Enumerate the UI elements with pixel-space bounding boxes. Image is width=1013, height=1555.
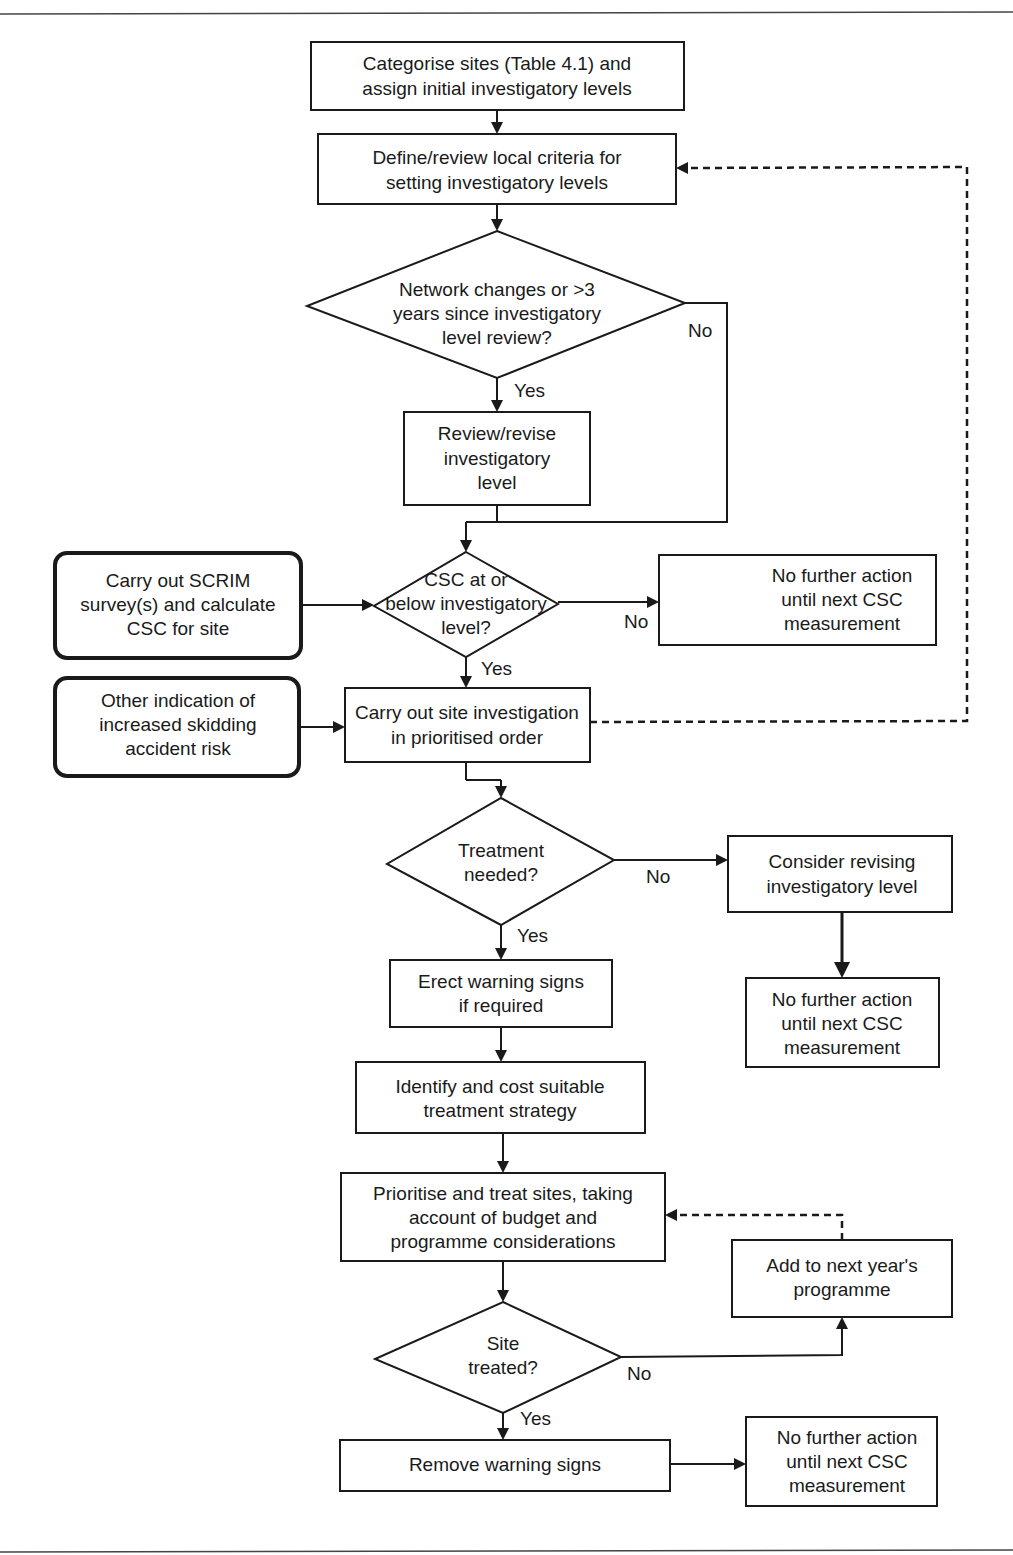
node-text: below investigatory bbox=[385, 593, 547, 614]
node-categorise: Categorise sites (Table 4.1) and assign … bbox=[311, 42, 684, 110]
node-text: Review/revise bbox=[438, 423, 556, 444]
node-text: Carry out site investigation bbox=[355, 702, 579, 723]
edge-label-yes: Yes bbox=[517, 925, 548, 946]
node-no-action-3: No further action until next CSC measure… bbox=[746, 1417, 937, 1506]
node-text: programme considerations bbox=[391, 1231, 616, 1252]
node-text: investigatory bbox=[444, 448, 551, 469]
node-scrim-survey: Carry out SCRIM survey(s) and calculate … bbox=[55, 553, 301, 658]
node-text: Carry out SCRIM bbox=[106, 570, 251, 591]
node-define: Define/review local criteria for setting… bbox=[318, 134, 676, 204]
node-text: No further action bbox=[777, 1427, 917, 1448]
node-text: if required bbox=[459, 995, 544, 1016]
node-text: years since investigatory bbox=[393, 303, 602, 324]
node-text: Prioritise and treat sites, taking bbox=[373, 1183, 633, 1204]
node-text: Consider revising bbox=[769, 851, 916, 872]
node-text: until next CSC bbox=[781, 589, 902, 610]
edge-label-no: No bbox=[627, 1363, 651, 1384]
node-text: needed? bbox=[464, 864, 538, 885]
node-text: Remove warning signs bbox=[409, 1454, 601, 1475]
node-text: investigatory level bbox=[766, 876, 917, 897]
node-text: No further action bbox=[772, 989, 912, 1010]
node-text: level bbox=[477, 472, 516, 493]
node-no-action-2: No further action until next CSC measure… bbox=[746, 978, 939, 1067]
bottom-rule bbox=[0, 1550, 1013, 1552]
node-text: Identify and cost suitable bbox=[395, 1076, 604, 1097]
node-text: level review? bbox=[442, 327, 552, 348]
node-review-revise: Review/revise investigatory level bbox=[404, 412, 590, 505]
node-text: Erect warning signs bbox=[418, 971, 584, 992]
edge-label-no: No bbox=[688, 320, 712, 341]
decision-treatment-needed: Treatment needed? bbox=[387, 798, 614, 925]
node-text: CSC for site bbox=[127, 618, 229, 639]
node-text: measurement bbox=[784, 613, 901, 634]
node-text: setting investigatory levels bbox=[386, 172, 608, 193]
node-text: Other indication of bbox=[101, 690, 256, 711]
edge-label-no: No bbox=[646, 866, 670, 887]
decision-csc-level: CSC at or below investigatory level? bbox=[374, 552, 558, 657]
node-remove-signs: Remove warning signs bbox=[340, 1440, 670, 1491]
node-text: account of budget and bbox=[409, 1207, 597, 1228]
edge-label-yes: Yes bbox=[520, 1408, 551, 1429]
node-text: CSC at or bbox=[424, 569, 508, 590]
node-text: treatment strategy bbox=[423, 1100, 577, 1121]
node-text: No further action bbox=[772, 565, 912, 586]
node-text: treated? bbox=[468, 1357, 538, 1378]
flowchart: Categorise sites (Table 4.1) and assign … bbox=[0, 0, 1013, 1555]
node-text: increased skidding bbox=[99, 714, 256, 735]
decision-network-changes: Network changes or >3 years since invest… bbox=[307, 231, 685, 378]
node-add-next-year: Add to next year's programme bbox=[732, 1240, 952, 1317]
node-text: Network changes or >3 bbox=[399, 279, 595, 300]
node-text: measurement bbox=[789, 1475, 906, 1496]
edge-label-yes: Yes bbox=[481, 658, 512, 679]
node-text: until next CSC bbox=[781, 1013, 902, 1034]
node-text: measurement bbox=[784, 1037, 901, 1058]
node-prioritise-treat: Prioritise and treat sites, taking accou… bbox=[341, 1173, 665, 1261]
node-text: accident risk bbox=[125, 738, 231, 759]
node-text: level? bbox=[441, 617, 491, 638]
node-consider-revising: Consider revising investigatory level bbox=[728, 836, 952, 912]
node-other-indication: Other indication of increased skidding a… bbox=[55, 678, 299, 776]
node-text: survey(s) and calculate bbox=[80, 594, 275, 615]
node-erect-signs: Erect warning signs if required bbox=[390, 960, 612, 1027]
node-site-investigation: Carry out site investigation in prioriti… bbox=[345, 688, 590, 762]
node-text: assign initial investigatory levels bbox=[362, 78, 631, 99]
node-text: Add to next year's bbox=[766, 1255, 918, 1276]
node-no-action-1: No further action until next CSC measure… bbox=[659, 555, 936, 645]
node-text: Treatment bbox=[458, 840, 545, 861]
node-text: Site bbox=[487, 1333, 520, 1354]
node-text: in prioritised order bbox=[391, 727, 544, 748]
top-rule bbox=[0, 12, 1013, 14]
node-text: programme bbox=[793, 1279, 890, 1300]
edge-label-yes: Yes bbox=[514, 380, 545, 401]
node-text: Categorise sites (Table 4.1) and bbox=[363, 53, 631, 74]
node-identify-cost: Identify and cost suitable treatment str… bbox=[356, 1062, 645, 1133]
node-text: Define/review local criteria for bbox=[372, 147, 622, 168]
edge-label-no: No bbox=[624, 611, 648, 632]
decision-site-treated: Site treated? bbox=[375, 1302, 621, 1413]
node-text: until next CSC bbox=[786, 1451, 907, 1472]
